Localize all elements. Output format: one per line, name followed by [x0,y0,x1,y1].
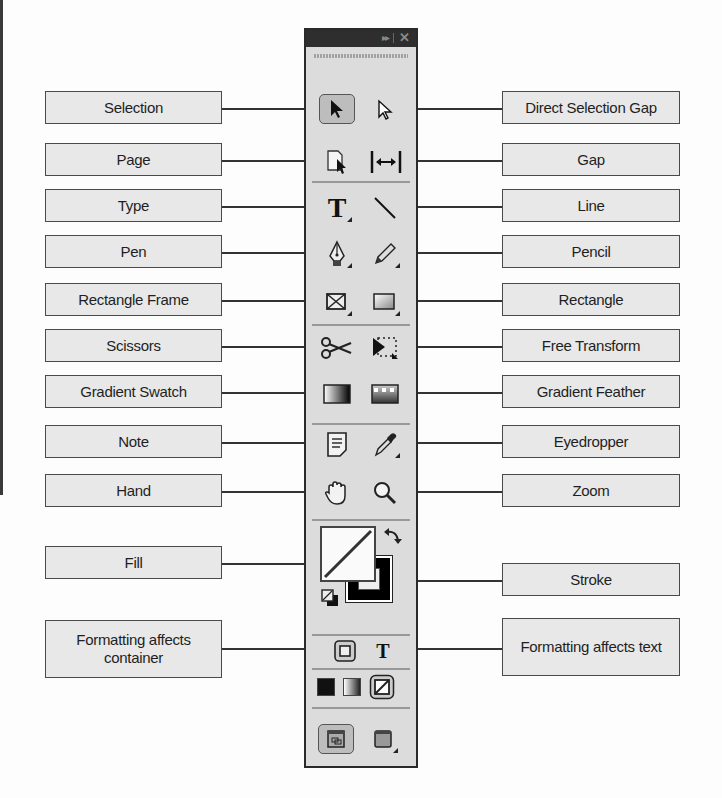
direct-selection-tool[interactable] [370,95,400,125]
gradient-swatch-tool[interactable] [322,379,352,409]
label-hand: Hand [45,474,222,507]
close-icon[interactable]: ✕ [399,30,410,45]
panel-divider [312,324,410,326]
selection-arrow-icon [328,98,346,120]
formatting-container-button[interactable] [330,636,360,666]
leader-line [413,346,502,348]
rectangle-icon [372,291,398,313]
gap-tool[interactable] [368,147,404,177]
label-type: Type [45,189,222,222]
panel-divider [312,707,410,709]
page-edge-bar [0,0,3,495]
leader-line [413,300,502,302]
leader-line [413,206,502,208]
label-free-transform: Free Transform [502,329,680,362]
label-selection: Selection [45,91,222,124]
leader-line [222,442,314,444]
pen-tool[interactable] [322,239,352,269]
apply-none-button[interactable] [368,672,396,702]
panel-titlebar[interactable]: ▸▸ ✕ [306,30,416,47]
label-note: Note [45,425,222,458]
gradient-swatch-icon [322,383,352,405]
line-tool[interactable] [370,193,400,223]
label-direct-selection: Direct Selection Gap [502,91,680,124]
label-line: Line [502,189,680,222]
panel-divider [312,181,410,183]
note-icon [325,430,349,458]
default-fill-stroke-button[interactable] [320,588,340,608]
preview-mode-icon [373,729,393,749]
selection-tool[interactable] [319,94,355,124]
leader-line [413,108,502,110]
gradient-icon [343,678,361,696]
type-icon: T [328,194,347,222]
label-formatting-container: Formatting affects container [45,620,222,678]
gap-icon [368,149,404,175]
label-formatting-text: Formatting affects text [502,618,680,676]
hand-tool[interactable] [322,478,352,508]
swap-fill-stroke-button[interactable] [382,526,404,548]
leader-line [222,108,316,110]
label-gradient-swatch: Gradient Swatch [45,375,222,408]
leader-line [222,300,314,302]
page-icon [324,148,350,176]
apply-gradient-button[interactable] [340,672,364,702]
normal-view-icon [326,729,346,749]
rectangle-frame-tool[interactable] [322,287,352,317]
label-zoom: Zoom [502,474,680,507]
pencil-icon [372,241,398,267]
formatting-text-button[interactable]: T [368,636,398,666]
free-transform-tool[interactable] [370,333,400,363]
leader-line [413,648,502,650]
text-t-icon: T [376,640,389,663]
direct-selection-arrow-icon [376,99,394,121]
label-stroke: Stroke [502,563,680,596]
leader-line [222,160,314,162]
leader-line [222,206,314,208]
titlebar-divider [393,33,394,43]
leader-line [222,648,314,650]
type-tool[interactable]: T [322,193,352,223]
solid-color-icon [317,678,335,696]
expand-icon[interactable]: ▸▸ [382,32,388,43]
leader-line [413,491,502,493]
leader-line [413,392,502,394]
panel-divider [312,668,410,670]
pencil-tool[interactable] [370,239,400,269]
none-icon [369,674,395,700]
free-transform-icon [370,334,400,362]
note-tool[interactable] [322,429,352,459]
hand-icon [323,479,351,507]
scissors-icon [320,336,354,360]
rectangle-frame-icon [325,291,349,313]
panel-divider [312,519,410,521]
apply-color-button[interactable] [314,672,338,702]
eyedropper-tool[interactable] [370,429,400,459]
eyedropper-icon [372,430,398,458]
gradient-feather-tool[interactable] [370,379,400,409]
leader-line [222,392,314,394]
normal-view-button[interactable] [318,724,354,754]
label-gap: Gap [502,143,680,176]
leader-line [222,346,314,348]
label-gradient-feather: Gradient Feather [502,375,680,408]
container-icon [333,639,357,663]
label-scissors: Scissors [45,329,222,362]
label-pen: Pen [45,235,222,268]
label-page: Page [45,143,222,176]
line-icon [372,195,398,221]
zoom-tool[interactable] [370,478,400,508]
preview-mode-button[interactable] [368,724,398,754]
leader-line [413,252,502,254]
leader-line [413,160,502,162]
page-tool[interactable] [322,147,352,177]
rectangle-tool[interactable] [370,287,400,317]
label-rectangle-frame: Rectangle Frame [45,283,222,316]
default-colors-icon [320,588,340,608]
fill-swatch[interactable] [320,526,376,582]
scissors-tool[interactable] [320,333,354,363]
tools-panel: ▸▸ ✕ T [304,28,418,768]
none-slash-icon [322,528,374,580]
panel-grip[interactable] [314,54,408,58]
panel-divider [312,423,410,425]
